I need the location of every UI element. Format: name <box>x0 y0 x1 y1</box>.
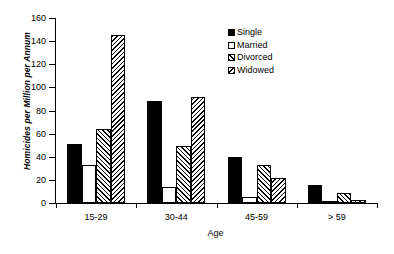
y-axis-tick-label: 0 <box>41 198 46 208</box>
y-axis-tick-label: 160 <box>31 13 46 23</box>
x-axis-tick <box>217 203 218 208</box>
bar <box>271 178 286 203</box>
y-axis-tick-label: 20 <box>36 175 46 185</box>
x-axis-title: Age <box>55 228 376 238</box>
legend-item: Married <box>228 41 274 50</box>
x-axis-tick-label: 30-44 <box>165 212 188 222</box>
y-axis-tick <box>49 157 56 158</box>
bar <box>82 165 97 203</box>
legend-item: Single <box>228 28 274 37</box>
bar-chart: Homicides per Million per Annum 02040608… <box>0 0 394 254</box>
bar <box>147 101 162 203</box>
y-axis-tick <box>49 18 56 19</box>
bar <box>242 197 257 203</box>
x-axis-tick-label: 15-29 <box>85 212 108 222</box>
y-axis-tick-label: 60 <box>36 129 46 139</box>
bar <box>322 201 337 203</box>
bar <box>308 185 323 204</box>
y-axis-tick <box>49 87 56 88</box>
x-axis-tick <box>56 203 57 208</box>
y-axis-tick <box>49 134 56 135</box>
legend-item: Widowed <box>228 66 274 75</box>
chart-legend: SingleMarriedDivorcedWidowed <box>228 28 274 75</box>
y-axis-tick-label: 40 <box>36 152 46 162</box>
legend-label: Widowed <box>237 66 274 75</box>
legend-swatch-icon <box>228 29 235 36</box>
y-axis-tick <box>49 64 56 65</box>
bar <box>337 193 352 203</box>
bar <box>176 146 191 203</box>
x-axis-tick <box>136 203 137 208</box>
y-axis-tick-label: 100 <box>31 82 46 92</box>
x-axis-tick-label: 45-59 <box>245 212 268 222</box>
legend-label: Married <box>237 41 268 50</box>
y-axis-tick <box>49 41 56 42</box>
x-axis-tick <box>297 203 298 208</box>
legend-swatch-icon <box>228 67 235 74</box>
y-axis-tick <box>49 111 56 112</box>
y-axis-tick <box>49 203 56 204</box>
legend-label: Single <box>237 28 262 37</box>
legend-label: Divorced <box>237 53 273 62</box>
legend-swatch-icon <box>228 42 235 49</box>
bar <box>96 129 111 203</box>
x-axis-tick-label: > 59 <box>328 212 346 222</box>
bar <box>228 157 243 203</box>
plot-area: 020406080100120140160 15-2930-4445-59> 5… <box>55 18 377 204</box>
bar <box>111 35 126 203</box>
y-axis-tick-label: 140 <box>31 36 46 46</box>
bar <box>67 144 82 203</box>
bar <box>257 165 272 203</box>
bar <box>191 97 206 203</box>
bar <box>351 200 366 203</box>
legend-swatch-icon <box>228 54 235 61</box>
bar <box>162 187 177 203</box>
y-axis-tick-label: 80 <box>36 106 46 116</box>
legend-item: Divorced <box>228 53 274 62</box>
y-axis-tick <box>49 180 56 181</box>
y-axis-tick-label: 120 <box>31 59 46 69</box>
x-axis-tick <box>377 203 378 208</box>
